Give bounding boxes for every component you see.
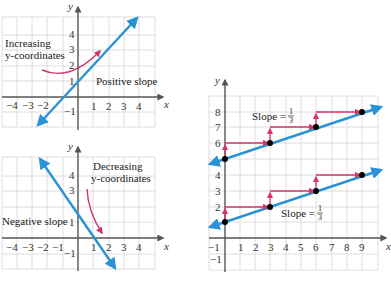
x-tick: 8 — [344, 241, 350, 253]
y-tick: −1 — [64, 105, 76, 117]
y-tick: 2 — [215, 201, 221, 213]
x-tick: 4 — [136, 241, 142, 253]
y-tick: 7 — [215, 121, 221, 133]
x-tick: 6 — [313, 241, 319, 253]
y-tick: 4 — [69, 169, 75, 181]
y-axis-label: y — [214, 74, 220, 86]
x-tick: 1 — [91, 241, 97, 253]
grid — [209, 96, 378, 270]
x-tick: 5 — [298, 241, 304, 253]
x-tick: −1 — [208, 241, 220, 253]
y-tick: 2 — [69, 59, 75, 71]
y-tick: 3 — [69, 43, 75, 55]
x-tick: −3 — [22, 241, 34, 253]
x-tick: 7 — [329, 241, 335, 253]
x-tick: 1 — [238, 241, 244, 253]
y-tick: 3 — [69, 184, 75, 196]
slope-diagram: x y −4 −3 −2 1 2 3 4 4 3 2 1 −1 Increasi… — [0, 0, 391, 281]
y-axis-label: y — [67, 0, 73, 12]
upper-slope-numerator: 1 — [289, 107, 293, 116]
x-tick: −2 — [37, 99, 49, 111]
lower-slope-numerator: 1 — [318, 204, 322, 213]
positive-slope-label: Positive slope — [96, 75, 158, 87]
x-tick: −1 — [52, 241, 64, 253]
x-tick: 2 — [106, 241, 112, 253]
upper-slope-denominator: 3 — [289, 116, 293, 125]
y-tick: 4 — [69, 28, 75, 40]
x-tick: 9 — [359, 241, 365, 253]
x-tick: 4 — [283, 241, 289, 253]
upper-slope-label: Slope = — [252, 110, 286, 122]
y-tick: 1 — [69, 216, 75, 228]
y-tick: −1 — [210, 253, 222, 265]
x-axis-label: x — [385, 240, 391, 252]
negative-slope-label: Negative slope — [2, 215, 68, 227]
x-tick: −2 — [37, 241, 49, 253]
annotation-y-coordinates: y-coordinates — [91, 172, 151, 184]
x-tick: −4 — [6, 241, 18, 253]
x-tick: 2 — [106, 100, 112, 112]
y-tick: 3 — [215, 185, 221, 197]
x-tick: −3 — [22, 99, 34, 111]
graph-parallel-slopes: x y −1 1 2 3 4 5 6 7 8 9 8 7 6 4 3 2 −1 — [208, 74, 391, 272]
x-tick: 3 — [268, 241, 274, 253]
annotation-increasing: Increasing — [5, 37, 51, 49]
annotation-decreasing: Decreasing — [93, 160, 143, 172]
x-tick: 2 — [253, 241, 259, 253]
x-tick: 3 — [121, 241, 127, 253]
y-tick: 4 — [215, 169, 221, 181]
y-tick: 6 — [215, 137, 221, 149]
decreasing-arrow-icon — [87, 189, 102, 233]
lower-slope-denominator: 3 — [318, 213, 322, 222]
y-axis-label: y — [67, 140, 73, 152]
x-tick: 4 — [136, 100, 142, 112]
x-tick: 3 — [121, 100, 127, 112]
upper-slope-line — [210, 107, 381, 164]
graph-negative-slope: x y −4 −3 −2 −1 1 2 3 4 4 3 1 −1 Decreas… — [2, 140, 169, 271]
x-axis-label: x — [163, 240, 169, 252]
x-tick: −4 — [6, 99, 18, 111]
graph-positive-slope: x y −4 −3 −2 1 2 3 4 4 3 2 1 −1 Increasi… — [2, 0, 169, 130]
y-tick: −1 — [64, 247, 76, 259]
annotation-y-coordinates: y-coordinates — [5, 49, 65, 61]
x-axis-label: x — [163, 98, 169, 110]
x-tick: 1 — [91, 100, 97, 112]
lower-slope-label: Slope = — [281, 207, 315, 219]
y-tick: 8 — [215, 106, 221, 118]
